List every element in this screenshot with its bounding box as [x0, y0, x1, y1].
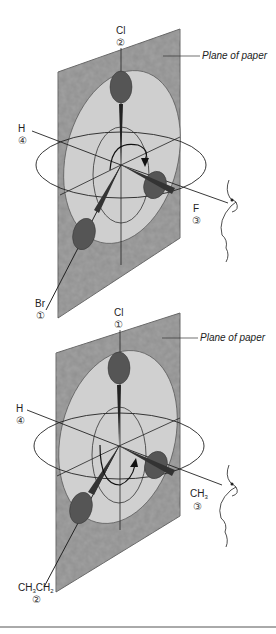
priority-f: ③ [192, 215, 201, 226]
label-ch2ch3: CH3CH2 [18, 582, 54, 594]
label-ch3: CH3 [190, 488, 208, 500]
priority-h: ④ [18, 135, 27, 146]
label-cl: Cl [114, 307, 123, 318]
viewer-face-icon [220, 465, 238, 547]
label-h: H [18, 123, 25, 134]
plane-label: Plane of paper [202, 50, 268, 61]
top-panel: Plane of paper Cl ② H ④ F ③ Br ① [18, 25, 268, 321]
label-cl: Cl [116, 25, 125, 36]
priority-ch2ch3: ② [32, 594, 41, 605]
viewer-face-icon [221, 180, 237, 262]
priority-ch3: ③ [193, 501, 202, 512]
label-f: F [193, 203, 199, 214]
priority-cl: ① [114, 319, 123, 330]
label-br: Br [35, 298, 46, 309]
diagram-canvas: Plane of paper Cl ② H ④ F ③ Br ① [0, 0, 276, 634]
priority-h: ④ [16, 415, 25, 426]
priority-br: ① [36, 310, 45, 321]
lobe-cl [110, 71, 132, 103]
label-h: H [16, 403, 23, 414]
bottom-panel: Plane of paper Cl ① H ④ CH3 ③ CH3CH2 ② [16, 307, 266, 605]
lobe-cl [108, 352, 130, 384]
priority-cl: ② [116, 37, 125, 48]
plane-label: Plane of paper [200, 332, 266, 343]
